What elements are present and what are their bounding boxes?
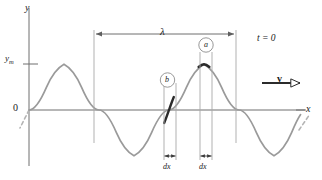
- time-label: t = 0: [257, 34, 276, 44]
- dx-label-element-b: dx: [163, 163, 171, 171]
- element-b-label: b: [165, 76, 169, 84]
- amplitude-label-subscript: m: [9, 58, 14, 65]
- y-axis-label: y: [25, 3, 29, 13]
- curve-dashed-left: [20, 110, 29, 128]
- x-axis-label: x: [306, 104, 310, 114]
- element-a-label: a: [204, 41, 208, 49]
- origin-label: 0: [13, 103, 18, 113]
- velocity-label: v: [277, 74, 282, 84]
- amplitude-label: ym: [5, 54, 14, 65]
- dx-label-element-a: dx: [199, 163, 207, 171]
- wave-diagram-figure: y x ym 0 λ t = 0 v a b dx dx: [0, 0, 322, 180]
- wavelength-label: λ: [160, 26, 165, 37]
- curve-dashed-right: [299, 114, 310, 130]
